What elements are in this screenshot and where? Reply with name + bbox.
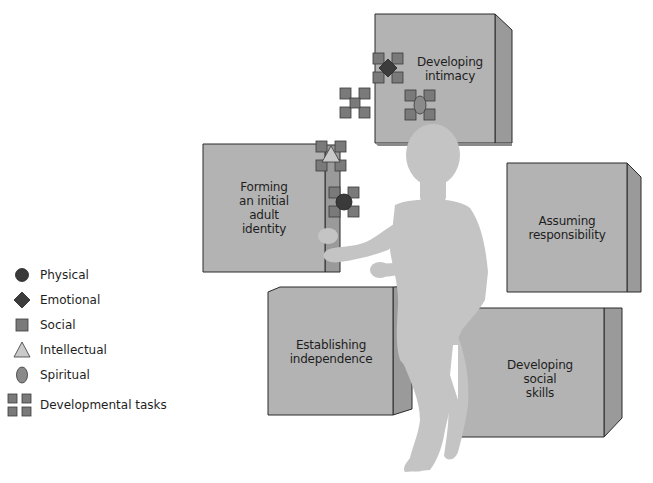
box-label-independence: Establishing independence <box>270 338 392 366</box>
label-line: social <box>480 372 600 386</box>
four-squares-icon <box>6 392 34 418</box>
ellipse-icon <box>10 365 34 385</box>
developmental-tasks-diagram: Developing intimacy Forming an initial a… <box>0 0 653 483</box>
legend-label: Developmental tasks <box>40 398 167 412</box>
legend-item-intellectual: Intellectual <box>10 340 107 360</box>
square-icon <box>10 315 34 335</box>
label-line: Assuming <box>508 214 626 228</box>
legend-item-spiritual: Spiritual <box>10 365 90 385</box>
legend-item-emotional: Emotional <box>10 290 100 310</box>
diamond-icon <box>10 290 34 310</box>
label-line: Establishing <box>270 338 392 352</box>
label-line: responsibility <box>508 228 626 242</box>
triangle-icon <box>10 340 34 360</box>
label-line: an initial <box>218 194 310 208</box>
label-line: independence <box>270 352 392 366</box>
label-line: identity <box>218 222 310 236</box>
task-cluster-social <box>340 88 370 118</box>
legend-label: Intellectual <box>40 343 107 357</box>
box-label-identity: Forming an initial adult identity <box>218 180 310 236</box>
legend-label: Physical <box>40 268 89 282</box>
label-line: Forming <box>218 180 310 194</box>
label-line: Developing <box>400 55 500 69</box>
circle-icon <box>10 265 34 285</box>
label-line: skills <box>480 386 600 400</box>
legend-item-developmental-tasks: Developmental tasks <box>6 392 167 418</box>
legend-item-physical: Physical <box>10 265 89 285</box>
label-line: Developing <box>480 358 600 372</box>
legend-item-social: Social <box>10 315 76 335</box>
box-label-responsibility: Assuming responsibility <box>508 214 626 242</box>
box-label-social-skills: Developing social skills <box>480 358 600 400</box>
box-label-intimacy: Developing intimacy <box>400 55 500 83</box>
label-line: adult <box>218 208 310 222</box>
legend-label: Social <box>40 318 76 332</box>
legend-label: Spiritual <box>40 368 90 382</box>
label-line: intimacy <box>400 69 500 83</box>
legend-label: Emotional <box>40 293 100 307</box>
